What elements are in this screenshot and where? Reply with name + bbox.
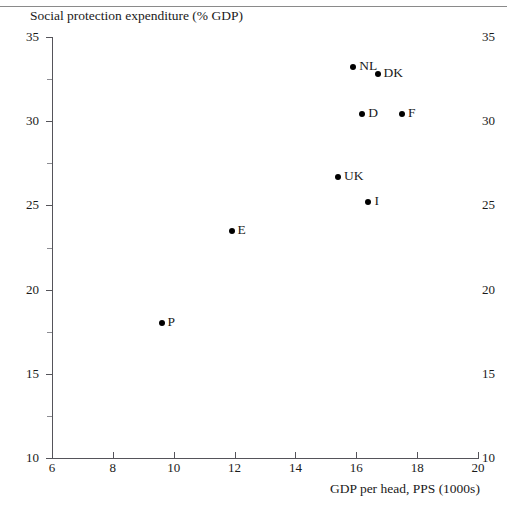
y-tick-major — [46, 374, 52, 375]
x-tick-major — [478, 452, 479, 458]
y-tick-major — [46, 37, 52, 38]
y-tick-minor — [47, 332, 52, 333]
right-axis-tick-label: 25 — [482, 198, 507, 211]
y-tick-minor — [47, 248, 52, 249]
x-tick-major — [113, 452, 114, 458]
x-tick-major — [295, 452, 296, 458]
x-tick-label: 18 — [397, 461, 437, 475]
right-axis-tick-label: 10 — [482, 451, 507, 464]
data-point-marker — [335, 174, 341, 180]
y-tick-major — [46, 290, 52, 291]
top-divider-rule — [0, 6, 507, 7]
right-axis-tick-label: 20 — [482, 283, 507, 296]
y-tick-label: 30 — [0, 114, 39, 127]
data-point-label: DK — [384, 66, 404, 80]
y-tick-label: 15 — [0, 367, 39, 380]
x-tick-major — [235, 452, 236, 458]
y-tick-label: 35 — [0, 30, 39, 43]
right-axis-tick-label: 30 — [482, 114, 507, 127]
y-tick-major — [46, 121, 52, 122]
data-point-marker — [159, 320, 165, 326]
data-point-label: P — [168, 315, 176, 329]
x-axis-title: GDP per head, PPS (1000s) — [330, 481, 480, 497]
x-tick-major — [417, 452, 418, 458]
x-tick-major — [174, 452, 175, 458]
data-point-marker — [350, 64, 356, 70]
x-tick-label: 6 — [32, 461, 72, 475]
y-tick-major — [46, 458, 52, 459]
right-axis-tick-label: 35 — [482, 30, 507, 43]
y-tick-minor — [47, 79, 52, 80]
x-tick-label: 12 — [215, 461, 255, 475]
x-axis-line — [52, 458, 479, 459]
y-tick-minor — [47, 163, 52, 164]
data-point-label: E — [238, 223, 246, 237]
x-tick-label: 16 — [336, 461, 376, 475]
y-axis-title: Social protection expenditure (% GDP) — [30, 8, 243, 24]
x-tick-label: 14 — [275, 461, 315, 475]
x-tick-label: 10 — [154, 461, 194, 475]
data-point-marker — [359, 111, 365, 117]
right-axis-tick-label: 15 — [482, 367, 507, 380]
data-point-label: UK — [344, 169, 364, 183]
y-tick-label: 20 — [0, 283, 39, 296]
data-point-label: NL — [359, 59, 377, 73]
data-point-marker — [375, 71, 381, 77]
x-tick-label: 8 — [93, 461, 133, 475]
data-point-label: D — [368, 106, 378, 120]
y-axis-line — [52, 37, 53, 459]
y-tick-label: 25 — [0, 198, 39, 211]
data-point-marker — [229, 228, 235, 234]
data-point-marker — [365, 199, 371, 205]
y-tick-major — [46, 205, 52, 206]
y-tick-minor — [47, 416, 52, 417]
data-point-label: I — [374, 194, 379, 208]
x-tick-major — [356, 452, 357, 458]
chart-page: Social protection expenditure (% GDP) 10… — [0, 0, 507, 507]
data-point-label: F — [408, 106, 416, 120]
data-point-marker — [399, 111, 405, 117]
